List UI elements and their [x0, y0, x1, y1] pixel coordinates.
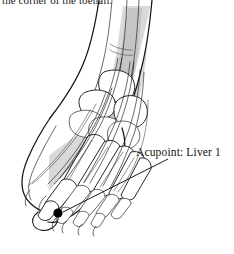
acupoint-dot: [53, 208, 62, 217]
acupoint-label: Acupoint: Liver 1: [136, 146, 221, 159]
foot-anatomy-illustration: .ln { fill:none; stroke:#1c1c1c; stroke-…: [0, 0, 234, 254]
figure-root: the corner of the toenail. .ln { fill:no…: [0, 0, 234, 254]
